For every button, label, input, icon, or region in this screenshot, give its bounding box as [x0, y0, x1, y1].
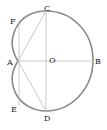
label-E: E	[11, 105, 17, 114]
cardioid-diagram: C F A O B E D	[0, 0, 107, 130]
label-F: F	[10, 17, 16, 26]
label-O: O	[49, 56, 56, 65]
label-B: B	[95, 57, 101, 66]
line-AD	[18, 61, 46, 111]
label-C: C	[44, 4, 50, 13]
label-D: D	[44, 114, 50, 123]
line-AC	[18, 11, 46, 61]
label-A: A	[6, 58, 13, 67]
